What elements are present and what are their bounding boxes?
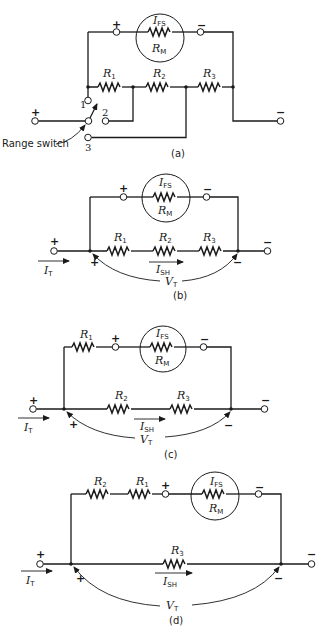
r1-label: R1 xyxy=(135,475,149,489)
meter-plus-sign: + xyxy=(161,479,170,492)
meter-resistance-label: RM xyxy=(154,354,169,368)
vt-minus-sign: − xyxy=(274,572,283,585)
output-minus-sign: − xyxy=(276,106,285,119)
r2-label: R2 xyxy=(93,475,107,489)
caption-c: (c) xyxy=(164,449,177,460)
meter-resistance-label: RM xyxy=(157,204,172,218)
output-minus-sign: − xyxy=(263,236,272,249)
r2-label: R2 xyxy=(158,231,172,245)
ayrton-shunt-diagram: + − IFS RM R1 R2 R3 − 1 2 3 xyxy=(0,0,322,640)
switch-contact-2[interactable] xyxy=(102,118,109,125)
voltage-arc-left-icon xyxy=(93,254,160,281)
voltage-label: VT xyxy=(166,599,179,613)
total-current-label: IT xyxy=(25,574,35,588)
voltage-arc-right-icon xyxy=(182,254,237,281)
voltage-label: VT xyxy=(140,433,153,447)
meter-current-label: IFS xyxy=(155,327,169,341)
meter-minus-sign: − xyxy=(200,333,209,346)
r1-label: R1 xyxy=(102,67,116,81)
vt-plus-sign: + xyxy=(90,256,99,269)
caption-a: (a) xyxy=(171,148,185,159)
meter-plus-sign: + xyxy=(119,182,128,195)
r3-label: R3 xyxy=(202,67,216,81)
switch-arm-icon[interactable] xyxy=(90,104,97,118)
input-plus-sign: + xyxy=(36,548,45,561)
caption-d: (d) xyxy=(169,615,183,626)
input-plus-sign: + xyxy=(31,106,40,119)
meter-plus-sign: + xyxy=(111,332,120,345)
meter-resistor-icon xyxy=(148,28,170,36)
switch-pos-1-label: 1 xyxy=(80,99,86,110)
vt-minus-sign: − xyxy=(224,419,233,432)
r2-label: R2 xyxy=(114,389,128,403)
r2-label: R2 xyxy=(152,67,166,81)
voltage-arc-right-icon xyxy=(192,567,279,605)
output-minus-sign: − xyxy=(261,394,270,407)
total-current-label: IT xyxy=(23,421,33,435)
meter-current-label: IFS xyxy=(152,14,166,28)
caption-b: (b) xyxy=(173,290,187,301)
voltage-label: VT xyxy=(165,275,178,289)
output-minus-sign: − xyxy=(307,548,316,561)
meter-resistance-label: RM xyxy=(208,502,223,516)
switch-contact-3[interactable] xyxy=(85,134,92,141)
shunt-current-label: ISH xyxy=(162,575,177,589)
shunt-current-label: ISH xyxy=(139,420,154,434)
input-plus-sign: + xyxy=(50,235,59,248)
meter-minus-sign: − xyxy=(255,481,264,494)
total-current-label: IT xyxy=(43,264,53,278)
meter-minus-sign: − xyxy=(197,19,206,32)
switch-pos-3-label: 3 xyxy=(85,142,91,153)
figure-b: + − IFS RM + − R1 R2 R3 IT ISH + − VT (b… xyxy=(38,174,272,301)
switch-pos-2-label: 2 xyxy=(102,107,108,118)
figure-c: R1 + − IFS RM + − R2 R3 IT ISH + − VT (c… xyxy=(18,326,270,460)
figure-d: R2 R1 + − IFS RM + − R3 IT ISH + − VT (d… xyxy=(21,472,316,626)
r1-label: R1 xyxy=(79,328,93,342)
r3-label: R3 xyxy=(202,231,216,245)
meter-current-label: IFS xyxy=(209,475,223,489)
r3-label: R3 xyxy=(176,389,190,403)
r1-label: R1 xyxy=(113,231,127,245)
r3-label: R3 xyxy=(170,544,184,558)
switch-pivot[interactable] xyxy=(85,118,92,125)
meter-resistance-label: RM xyxy=(151,42,166,56)
meter-minus-sign: − xyxy=(203,183,212,196)
figure-a: + − IFS RM R1 R2 R3 − 1 2 3 xyxy=(2,14,285,159)
input-plus-sign: + xyxy=(29,394,38,407)
meter-plus-sign: + xyxy=(112,18,121,31)
voltage-arc-right-icon xyxy=(165,412,230,437)
voltage-arc-left-icon xyxy=(74,567,160,606)
meter-current-label: IFS xyxy=(158,176,172,190)
